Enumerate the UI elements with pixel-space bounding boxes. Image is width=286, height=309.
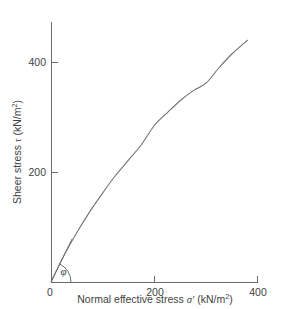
y-axis-title-text: Sheer stress (11, 145, 23, 204)
failure-envelope-curve (51, 40, 248, 282)
x-axis-title-units-post: ) (229, 293, 233, 305)
y-tick-label-400: 400 (28, 56, 46, 68)
shear-stress-chart: 400 200 0 200 400 φ Normal effective str… (0, 0, 286, 309)
y-axis-title: Sheer stress τ (kN/m2) (10, 100, 23, 204)
friction-angle-label: φ (60, 265, 66, 277)
y-tick-label-200: 200 (28, 166, 46, 178)
y-axis-title-units-post: ) (11, 100, 23, 104)
x-axis-title: Normal effective stress σ′ (kN/m2) (77, 292, 232, 305)
x-axis-title-text: Normal effective stress (77, 293, 184, 305)
x-axis-title-units-pre: (kN/m (197, 293, 225, 305)
y-axis-title-units-pre: (kN/m (11, 107, 23, 135)
chart-figure: 400 200 0 200 400 φ Normal effective str… (0, 0, 286, 309)
x-tick-label-0: 0 (47, 286, 53, 298)
x-tick-label-400: 400 (249, 286, 267, 298)
